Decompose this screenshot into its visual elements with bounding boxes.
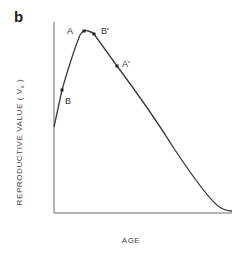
point-label-B-prime: B' — [101, 26, 109, 36]
marker-A-prime — [116, 65, 119, 68]
marker-B-prime — [93, 33, 96, 36]
marker-B — [61, 89, 64, 92]
marker-A — [83, 30, 86, 33]
point-label-B: B — [65, 96, 71, 106]
point-label-A: A — [67, 26, 73, 36]
point-label-A-prime: A' — [122, 59, 130, 69]
chart-plot — [0, 0, 246, 256]
reproductive-value-curve — [54, 31, 232, 212]
